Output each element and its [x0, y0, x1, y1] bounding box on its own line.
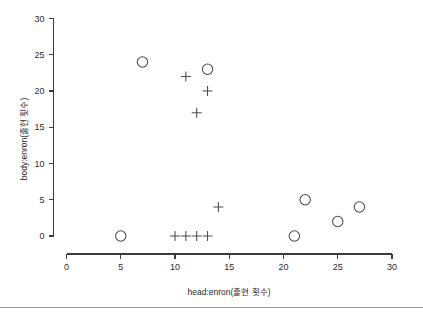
x-axis-title: head:enron(출현 횟수): [187, 287, 270, 297]
data-point-plus: [181, 231, 191, 241]
data-point-plus: [181, 72, 191, 82]
data-point-circle: [137, 57, 147, 67]
y-tick-label: 25: [34, 50, 44, 60]
data-point-plus: [192, 108, 202, 118]
x-tick-label: 30: [387, 262, 397, 272]
x-tick-label: 15: [224, 262, 234, 272]
y-axis-title: body:enron(출현 횟수): [19, 98, 29, 181]
x-tick-label: 10: [170, 262, 180, 272]
data-point-plus: [203, 231, 213, 241]
data-point-circle: [289, 231, 299, 241]
data-point-circle: [300, 195, 310, 205]
y-tick-label: 5: [39, 195, 44, 205]
data-point-plus: [170, 231, 180, 241]
data-point-plus: [203, 86, 213, 96]
data-markers: [116, 57, 365, 241]
axes: [54, 19, 393, 255]
y-tick-label: 15: [34, 122, 44, 132]
plot-canvas: 051015202530 051015202530 head:enron(출현 …: [0, 0, 423, 316]
x-tick-label: 5: [118, 262, 123, 272]
data-point-circle: [202, 64, 212, 74]
y-tick-label: 30: [34, 14, 44, 24]
y-tick-label: 0: [39, 231, 44, 241]
y-axis-ticks: 051015202530: [34, 14, 53, 242]
data-point-circle: [354, 202, 364, 212]
x-tick-label: 20: [278, 262, 288, 272]
footer-divider: [0, 307, 423, 308]
data-point-plus: [192, 231, 202, 241]
scatter-plot-figure: 051015202530 051015202530 head:enron(출현 …: [0, 0, 423, 316]
y-tick-label: 10: [34, 159, 44, 169]
data-point-plus: [213, 202, 223, 212]
data-point-circle: [333, 216, 343, 226]
x-axis-ticks: 051015202530: [64, 254, 397, 272]
x-tick-label: 0: [64, 262, 69, 272]
x-tick-label: 25: [333, 262, 343, 272]
y-tick-label: 20: [34, 86, 44, 96]
data-point-circle: [116, 231, 126, 241]
